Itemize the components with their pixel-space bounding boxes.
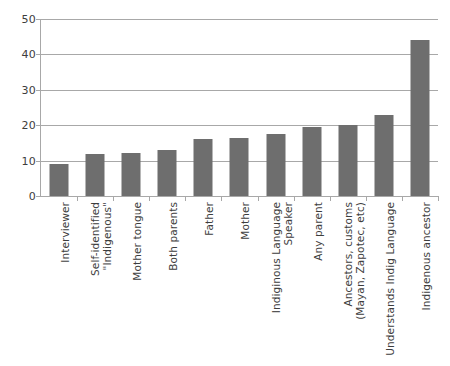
x-axis-label: Any parent [294,202,330,362]
bar-slot [402,19,438,196]
bar-slot [330,19,366,196]
x-axis-label: Father [185,202,221,362]
x-axis-label-text: Self-identified"Indigenous" [89,202,113,276]
x-tick-mark [330,196,331,201]
bar-slot [149,19,185,196]
x-axis-label-line: Indigenous ancestor [420,202,432,311]
x-axis-category-labels: InterviewerSelf-identified"Indigenous"Mo… [41,202,438,362]
x-tick-mark [366,196,367,201]
x-axis-label-line: "Indigenous" [101,202,113,276]
x-tick-mark [77,196,78,201]
x-axis-label-line: Understands Indig Language [384,202,396,356]
x-axis-label-line: Any parent [312,202,324,261]
x-axis-label-line: Ancestors, customs [342,202,354,306]
x-axis-label-text: Both parents [167,202,179,271]
x-tick-mark [258,196,259,201]
y-tick-mark-0 [36,196,41,197]
x-axis-label-text: Indiginous LanguageSpeaker [270,202,294,313]
x-tick-mark [185,196,186,201]
bar [86,154,105,196]
x-axis-label-text: Understands Indig Language [384,202,396,356]
bar [302,127,321,196]
x-axis-label: Mother tongue [113,202,149,362]
bar [266,134,285,196]
y-tick-label-30: 30 [6,85,36,96]
x-axis-label: Understands Indig Language [366,202,402,362]
bar [122,153,141,196]
bar-slot [366,19,402,196]
x-axis-label: Interviewer [41,202,77,362]
y-tick-label-50: 50 [6,14,36,25]
x-axis-label-text: Any parent [312,202,324,261]
x-tick-mark [221,196,222,201]
bar-chart: 50 40 30 20 10 0 InterviewerSelf-identif… [0,0,450,366]
x-axis-line [40,196,438,197]
bar-slot [77,19,113,196]
x-axis-label: Indigenous ancestor [402,202,438,362]
bar-slot [294,19,330,196]
bars-layer [41,19,438,196]
x-axis-label: Both parents [149,202,185,362]
bar [50,164,69,196]
x-axis-label: Indiginous LanguageSpeaker [258,202,294,362]
x-axis-label-line: Both parents [167,202,179,271]
x-axis-label-text: Interviewer [59,202,71,263]
x-axis-label-line: Mother [239,202,251,240]
bar-slot [41,19,77,196]
x-axis-label-line: Interviewer [59,202,71,263]
bar-slot [221,19,257,196]
bar [338,125,357,196]
x-axis-label-line: Father [203,202,215,236]
x-axis-label-text: Father [203,202,215,236]
x-axis-label-line: (Mayan, Zapotec, etc) [354,202,366,320]
x-axis-label-text: Mother [239,202,251,240]
x-axis-label: Ancestors, customs(Mayan, Zapotec, etc) [330,202,366,362]
bar [374,115,393,196]
x-axis-label: Self-identified"Indigenous" [77,202,113,362]
x-tick-mark [294,196,295,201]
x-axis-label-line: Speaker [282,202,294,313]
x-axis-label-line: Mother tongue [131,202,143,281]
x-tick-mark [438,196,439,201]
x-tick-mark [113,196,114,201]
bar [158,150,177,196]
x-tick-mark [149,196,150,201]
x-axis-label-text: Indigenous ancestor [420,202,432,311]
x-axis-label-text: Ancestors, customs(Mayan, Zapotec, etc) [342,202,366,320]
x-axis-label-text: Mother tongue [131,202,143,281]
y-tick-label-40: 40 [6,49,36,60]
y-tick-label-0: 0 [6,191,36,202]
x-axis-label-line: Indiginous Language [270,202,282,313]
y-tick-label-20: 20 [6,120,36,131]
bar [410,40,429,196]
bar [230,138,249,196]
x-axis-label: Mother [221,202,257,362]
bar-slot [258,19,294,196]
bar-slot [113,19,149,196]
bar [194,139,213,196]
bar-slot [185,19,221,196]
x-axis-label-line: Self-identified [89,202,101,276]
y-tick-label-10: 10 [6,156,36,167]
x-tick-mark [402,196,403,201]
